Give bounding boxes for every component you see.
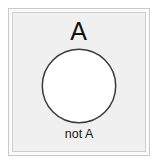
set-a-circle: [41, 48, 117, 124]
set-diagram: A not A: [0, 0, 159, 166]
set-a-label: A: [0, 17, 159, 45]
complement-label: not A: [0, 127, 159, 142]
